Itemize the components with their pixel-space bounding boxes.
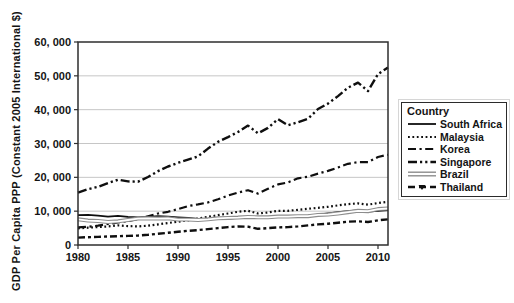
y-tick-label: 40, 000 [34, 104, 71, 116]
y-tick-label: 0 [65, 239, 71, 251]
legend-item-label: Brazil [440, 168, 469, 180]
x-tick-label: 1995 [216, 251, 240, 263]
x-tick-label: 1980 [66, 251, 90, 263]
series-line-brazil-inner [78, 209, 388, 223]
legend-item-label: South Africa [440, 118, 502, 130]
legend-title: Country [407, 105, 502, 118]
legend-item-label: Thailand [440, 181, 483, 193]
legend-line-sample-icon [407, 143, 437, 155]
x-tick-label: 2000 [266, 251, 290, 263]
x-tick-label: 1990 [166, 251, 190, 263]
y-tick-label: 10, 000 [34, 205, 71, 217]
legend-item: Brazil [407, 168, 502, 181]
x-tick-label: 2005 [316, 251, 340, 263]
legend-item-label: Malaysia [440, 131, 484, 143]
y-tick-label: 60, 000 [34, 36, 71, 48]
series-line-singapore [78, 67, 388, 192]
gdp-ppp-chart-figure: GDP Per Capita PPP (Constant 2005 Intern… [0, 0, 514, 303]
legend: Country South AfricaMalaysiaKoreaSingapo… [401, 102, 507, 197]
legend-items: South AfricaMalaysiaKoreaSingaporeBrazil… [407, 118, 502, 193]
legend-item-label: Singapore [440, 156, 491, 168]
legend-line-sample-icon [407, 118, 437, 130]
y-tick-label: 20, 000 [34, 171, 71, 183]
legend-item: Singapore [407, 156, 502, 169]
legend-item: Korea [407, 143, 502, 156]
y-tick-label: 50, 000 [34, 70, 71, 82]
legend-item-label: Korea [440, 143, 470, 155]
legend-item: Thailand [407, 181, 502, 194]
legend-item: Malaysia [407, 131, 502, 144]
legend-item: South Africa [407, 118, 502, 131]
legend-line-sample-icon [407, 168, 437, 180]
legend-line-sample-icon [407, 156, 437, 168]
x-tick-label: 1985 [116, 251, 140, 263]
legend-line-sample-icon [407, 181, 437, 193]
x-tick-label: 2010 [366, 251, 390, 263]
legend-line-sample-icon [407, 131, 437, 143]
y-tick-label: 30, 000 [34, 138, 71, 150]
